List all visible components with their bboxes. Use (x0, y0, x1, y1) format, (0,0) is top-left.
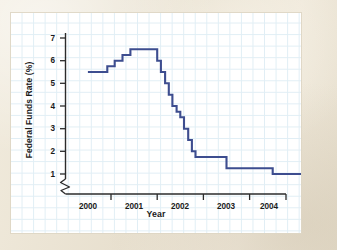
y-tick-label-5: 5 (41, 79, 55, 88)
x-axis-title: Year (11, 209, 301, 219)
y-tick-label-4: 4 (41, 102, 55, 111)
y-axis-ticks (60, 38, 66, 174)
y-axis-break-icon (61, 179, 70, 194)
chart-panel: 7 6 5 4 3 2 1 2000 2001 2002 2003 2004 F… (11, 13, 301, 233)
y-tick-label-1: 1 (41, 170, 55, 179)
y-tick-label-6: 6 (41, 56, 55, 65)
y-tick-label-7: 7 (41, 34, 55, 43)
chart-plot-area (11, 13, 301, 233)
federal-funds-rate-line (88, 49, 301, 174)
y-tick-label-2: 2 (41, 147, 55, 156)
y-tick-label-3: 3 (41, 124, 55, 133)
y-axis-title: Federal Funds Rate (%) (24, 50, 34, 170)
x-axis-ticks (111, 194, 286, 200)
